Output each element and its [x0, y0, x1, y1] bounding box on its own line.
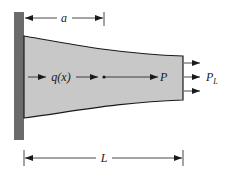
label-internal-force-p: P	[159, 70, 168, 84]
label-q-x: q(x)	[51, 70, 70, 84]
dimension-l: L	[24, 150, 183, 166]
tapered-bar-diagram: a q(x) P PL L	[0, 0, 230, 177]
end-load-arrows	[184, 63, 200, 91]
label-end-load: PL	[205, 70, 218, 86]
label-a: a	[61, 11, 67, 25]
dimension-a: a	[25, 11, 104, 26]
fixed-wall	[14, 12, 24, 140]
label-l: L	[100, 151, 108, 165]
